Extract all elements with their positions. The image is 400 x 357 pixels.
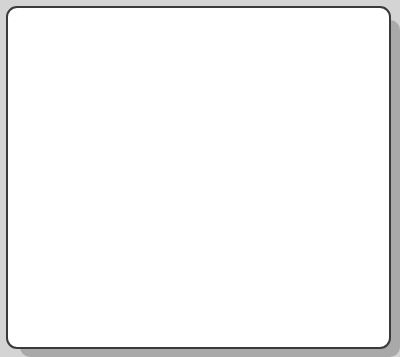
grid-diagram [0, 0, 400, 357]
